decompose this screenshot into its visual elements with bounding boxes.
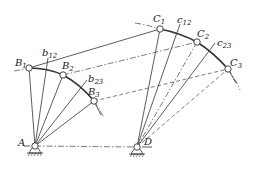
label-b3: B3 <box>87 86 100 99</box>
label-a: A <box>17 137 25 148</box>
bisector-c23 <box>137 43 215 147</box>
coupler-b1c1 <box>29 29 160 68</box>
coupler-b3c3 <box>94 69 228 101</box>
label-c1: C1 <box>153 13 165 26</box>
frame-line-ad <box>35 146 137 147</box>
coupler-b2c2 <box>63 42 197 75</box>
bisector-b12 <box>35 58 48 146</box>
joint-b2 <box>60 72 66 78</box>
label-d: D <box>143 136 152 147</box>
label-c3: C3 <box>230 57 243 70</box>
label-b12: b12 <box>42 47 58 60</box>
fixed-pivot-d <box>129 144 145 157</box>
arc-c <box>160 29 228 69</box>
fixed-pivot-a <box>27 143 43 156</box>
joint-c2 <box>194 39 200 45</box>
label-b23: b23 <box>88 73 104 86</box>
rocker-dc2 <box>137 42 197 147</box>
label-b1: B1 <box>14 57 27 70</box>
crank-ab1 <box>29 68 35 146</box>
rocker-dc1 <box>137 29 160 147</box>
bisector-b23 <box>35 80 87 146</box>
label-b2: B2 <box>61 60 74 73</box>
linkage-diagram: A D B1 B2 B3 C1 C2 C3 b12 b23 c12 c23 <box>0 0 256 174</box>
label-c23: c23 <box>217 37 232 50</box>
joint-c1 <box>157 26 163 32</box>
